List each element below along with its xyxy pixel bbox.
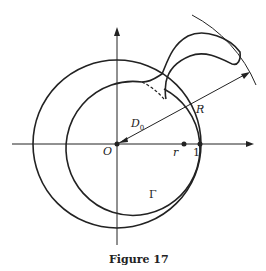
origin-arrow-icon bbox=[119, 137, 128, 143]
dashed-arc bbox=[142, 82, 164, 99]
label-R: R bbox=[195, 103, 204, 116]
y-axis-arrow-icon bbox=[114, 27, 120, 36]
figure-diagram: O r 1 D0 R Γ Figure 17 bbox=[0, 0, 266, 271]
figure-caption: Figure 17 bbox=[109, 253, 169, 266]
radius-R-arrow-icon bbox=[241, 72, 250, 79]
origin-point bbox=[115, 142, 120, 147]
label-domain: D0 bbox=[130, 117, 144, 132]
label-domain-main: D bbox=[130, 117, 140, 130]
label-origin: O bbox=[103, 145, 112, 158]
label-domain-sub: 0 bbox=[140, 124, 144, 132]
domain-boundary bbox=[142, 33, 240, 99]
label-one: 1 bbox=[193, 146, 200, 159]
radius-R-line bbox=[119, 74, 246, 143]
label-gamma: Γ bbox=[149, 188, 157, 201]
point-r bbox=[182, 142, 187, 147]
inner-circle-gamma bbox=[66, 81, 200, 215]
x-axis-arrow-icon bbox=[246, 141, 254, 147]
label-r: r bbox=[173, 146, 179, 159]
